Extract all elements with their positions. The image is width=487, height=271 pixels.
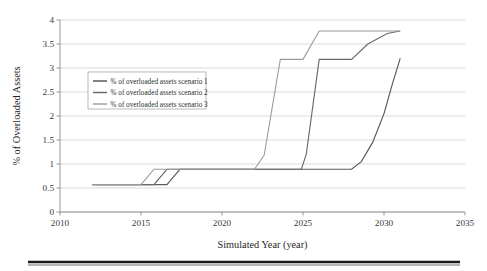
y-tick-label: 2 bbox=[49, 111, 54, 121]
legend-label-3: % of overloaded assets scenario 3 bbox=[111, 101, 209, 109]
line-chart: 201020152020202520302035 00.511.522.533.… bbox=[0, 0, 487, 271]
x-tick-label: 2010 bbox=[51, 218, 70, 228]
y-tick-label: 4 bbox=[49, 15, 54, 25]
x-tick-label: 2030 bbox=[375, 218, 394, 228]
y-tick-label: 2.5 bbox=[43, 87, 55, 97]
y-tick-label: 3.5 bbox=[43, 39, 55, 49]
y-tick-label: 3 bbox=[49, 63, 54, 73]
x-tick-label: 2015 bbox=[132, 218, 151, 228]
x-tick-label: 2035 bbox=[456, 218, 475, 228]
chart-figure: 201020152020202520302035 00.511.522.533.… bbox=[0, 0, 487, 271]
y-tick-label: 1.5 bbox=[43, 135, 55, 145]
legend-label-1: % of overloaded assets scenario 1 bbox=[111, 78, 209, 86]
y-tick-label: 0.5 bbox=[43, 183, 55, 193]
x-tick-label: 2025 bbox=[294, 218, 313, 228]
x-axis-title: Simulated Year (year) bbox=[217, 239, 307, 251]
y-tick-label: 1 bbox=[49, 159, 54, 169]
x-tick-label: 2020 bbox=[213, 218, 232, 228]
y-axis-title: % of Overloaded Assets bbox=[11, 66, 22, 165]
y-tick-label: 0 bbox=[49, 207, 54, 217]
legend-label-2: % of overloaded assets scenario 2 bbox=[111, 89, 209, 97]
chart-background bbox=[0, 0, 487, 271]
chart-legend: % of overloaded assets scenario 1% of ov… bbox=[88, 72, 208, 109]
